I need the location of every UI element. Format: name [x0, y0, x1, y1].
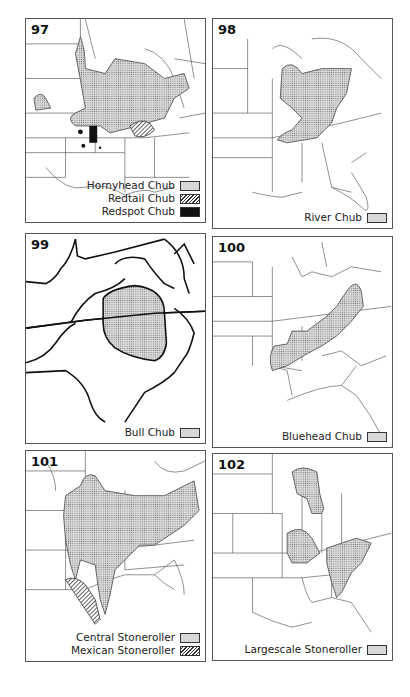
map-98 — [213, 19, 392, 228]
redtail-chub-range — [130, 121, 155, 137]
map-number: 102 — [218, 457, 245, 472]
map-panel-100: 100 Bluehead Chub — [212, 236, 393, 448]
map-panel-97: 97 Hornyhead Chub Redtail Chub Redspot C… — [25, 18, 206, 223]
legend-item-largescale-stoneroller: Largescale Stoneroller — [245, 643, 387, 656]
legend-item-bull-chub: Bull Chub — [125, 426, 200, 439]
legend: Bull Chub — [125, 426, 200, 439]
legend-item-mexican-stoneroller: Mexican Stoneroller — [71, 644, 200, 657]
legend-item-central-stoneroller: Central Stoneroller — [71, 631, 200, 644]
legend-item-hornyhead-chub: Hornyhead Chub — [87, 179, 200, 192]
legend: River Chub — [304, 211, 387, 224]
map-panel-98: 98 River Chub — [212, 18, 393, 229]
bull-chub-range — [103, 286, 166, 361]
map-101 — [26, 451, 205, 661]
map-number: 99 — [31, 237, 49, 252]
map-number: 98 — [218, 22, 236, 37]
map-panel-101: 101 Central Stoneroller Mexican Stonerol… — [25, 450, 206, 662]
solid-swatch-icon — [180, 207, 200, 217]
stipple-swatch-icon — [367, 432, 387, 442]
hornyhead-chub-range-west — [34, 94, 51, 110]
stipple-swatch-icon — [367, 213, 387, 223]
hatch-swatch-icon — [180, 194, 200, 204]
legend: Hornyhead Chub Redtail Chub Redspot Chub — [87, 179, 200, 218]
legend: Largescale Stoneroller — [245, 643, 387, 656]
map-panel-102: 102 Largescale Stoneroller — [212, 453, 393, 661]
map-number: 100 — [218, 240, 245, 255]
hatch-swatch-icon — [180, 646, 200, 656]
map-number: 101 — [31, 454, 58, 469]
stipple-swatch-icon — [180, 428, 200, 438]
stipple-swatch-icon — [367, 645, 387, 655]
stipple-swatch-icon — [180, 633, 200, 643]
redspot-chub-range — [89, 126, 97, 143]
map-99 — [26, 234, 205, 443]
largescale-stoneroller-range-southeast — [327, 538, 372, 597]
bluehead-chub-range — [270, 284, 363, 371]
river-chub-range — [277, 65, 351, 143]
map-102 — [213, 454, 392, 660]
legend: Central Stoneroller Mexican Stoneroller — [71, 631, 200, 657]
map-100 — [213, 237, 392, 447]
legend: Bluehead Chub — [282, 430, 387, 443]
legend-item-redspot-chub: Redspot Chub — [87, 205, 200, 218]
largescale-stoneroller-range-north — [292, 468, 324, 513]
hornyhead-chub-range — [71, 37, 190, 133]
map-panel-99: 99 Bull Chub — [25, 233, 206, 444]
legend-item-river-chub: River Chub — [304, 211, 387, 224]
legend-item-bluehead-chub: Bluehead Chub — [282, 430, 387, 443]
map-number: 97 — [31, 22, 49, 37]
largescale-stoneroller-range-ozark — [287, 529, 320, 563]
legend-item-redtail-chub: Redtail Chub — [87, 192, 200, 205]
stipple-swatch-icon — [180, 181, 200, 191]
